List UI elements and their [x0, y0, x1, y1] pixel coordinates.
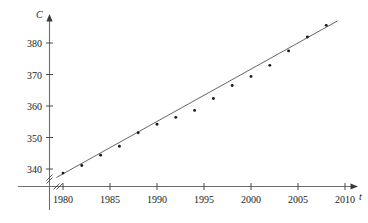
- x-axis-label: t: [359, 191, 362, 202]
- xtick-label-2010: 2010: [335, 194, 355, 205]
- x-axis-arrow-icon: [351, 183, 359, 189]
- chart-canvas: [0, 0, 368, 223]
- data-point: [62, 172, 65, 175]
- data-point: [193, 109, 196, 112]
- ytick-label-360: 360: [16, 101, 42, 112]
- data-point: [137, 131, 140, 134]
- data-point: [174, 116, 177, 119]
- regression-line: [56, 21, 337, 178]
- data-point: [118, 145, 121, 148]
- data-point: [156, 123, 159, 126]
- xtick-label-2000: 2000: [241, 194, 261, 205]
- xtick-label-1990: 1990: [147, 194, 167, 205]
- data-point: [250, 75, 253, 78]
- chart-figure: 380 370 360 350 340 1980 1985 1990 1995 …: [0, 0, 368, 223]
- ytick-label-340: 340: [16, 164, 42, 175]
- data-point: [287, 49, 290, 52]
- data-point: [325, 24, 328, 27]
- data-point: [268, 64, 271, 67]
- data-point: [231, 84, 234, 87]
- data-point: [99, 154, 102, 157]
- y-axis-arrow-icon: [46, 14, 52, 22]
- xtick-label-1985: 1985: [100, 194, 120, 205]
- ytick-label-370: 370: [16, 69, 42, 80]
- data-point: [80, 164, 83, 167]
- ytick-label-350: 350: [16, 132, 42, 143]
- data-point: [212, 97, 215, 100]
- ytick-label-380: 380: [16, 38, 42, 49]
- xtick-label-1980: 1980: [53, 194, 73, 205]
- y-axis-label: C: [36, 9, 43, 20]
- xtick-label-1995: 1995: [194, 194, 214, 205]
- xtick-label-2005: 2005: [288, 194, 308, 205]
- data-point: [306, 36, 309, 39]
